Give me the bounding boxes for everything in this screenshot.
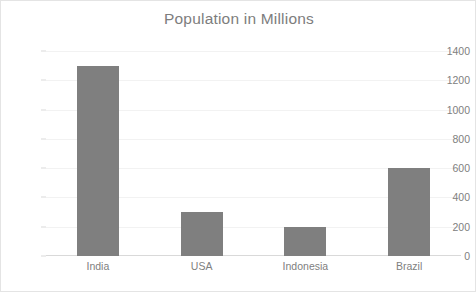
x-tick-label: Indonesia [283,260,329,272]
bar [181,212,223,256]
x-axis: IndiaUSAIndonesiaBrazil [46,260,461,280]
x-tick-label: India [86,260,109,272]
y-tick-mark [41,226,46,227]
y-axis [1,51,39,256]
y-tick-label: 1400 [447,45,470,57]
y-tick-label: 400 [452,191,470,203]
chart-container: Population in Millions IndiaUSAIndonesia… [0,0,476,292]
plot-area [46,51,461,256]
bar [284,227,326,256]
x-tick-label: Brazil [396,260,422,272]
y-tick-mark [41,256,46,257]
y-tick-mark [41,138,46,139]
y-tick-label: 1200 [447,74,470,86]
y-tick-label: 0 [464,250,470,262]
y-tick-label: 600 [452,162,470,174]
x-tick-label: USA [191,260,213,272]
y-tick-mark [41,51,46,52]
bar [77,66,119,256]
y-tick-mark [41,109,46,110]
y-tick-label: 200 [452,221,470,233]
gridline [46,51,461,52]
y-tick-mark [41,80,46,81]
y-tick-label: 1000 [447,104,470,116]
y-tick-label: 800 [452,133,470,145]
chart-title: Population in Millions [1,10,476,28]
y-tick-mark [41,168,46,169]
bar [388,168,430,256]
y-tick-mark [41,197,46,198]
